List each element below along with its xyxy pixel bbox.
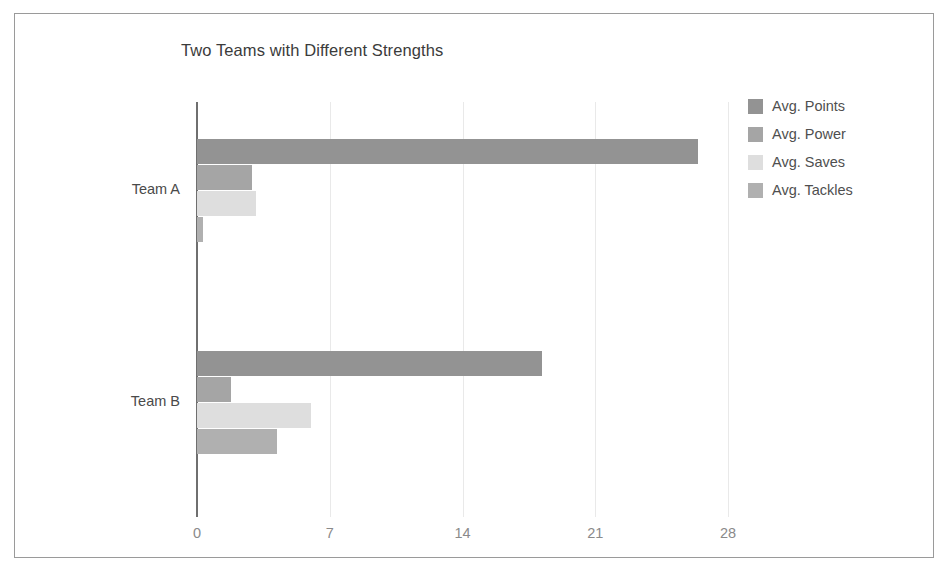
legend-item-avg-points[interactable]: Avg. Points: [748, 97, 928, 116]
legend-item-avg-saves[interactable]: Avg. Saves: [748, 153, 928, 172]
x-tick-label-21: 21: [587, 525, 603, 541]
chart-title: Two Teams with Different Strengths: [181, 41, 443, 60]
legend-label: Avg. Power: [772, 125, 846, 144]
x-tick-label-14: 14: [454, 525, 470, 541]
bar-team-b-avg-saves[interactable]: [197, 403, 311, 428]
bar-team-a-avg-points[interactable]: [197, 139, 698, 164]
legend-label: Avg. Points: [772, 97, 845, 116]
legend-swatch-icon: [748, 99, 763, 114]
legend-item-avg-power[interactable]: Avg. Power: [748, 125, 928, 144]
bar-team-a-avg-power[interactable]: [197, 165, 252, 190]
x-tick-label-28: 28: [720, 525, 736, 541]
legend-swatch-icon: [748, 183, 763, 198]
legend-swatch-icon: [748, 155, 763, 170]
category-label-team-a: Team A: [70, 181, 180, 197]
chart-legend: Avg. PointsAvg. PowerAvg. SavesAvg. Tack…: [748, 97, 928, 209]
bar-team-b-avg-power[interactable]: [197, 377, 231, 402]
legend-swatch-icon: [748, 127, 763, 142]
legend-label: Avg. Tackles: [772, 181, 853, 200]
bar-team-b-avg-tackles[interactable]: [197, 429, 277, 454]
bar-team-a-avg-saves[interactable]: [197, 191, 256, 216]
category-label-team-b: Team B: [70, 393, 180, 409]
gridline-28: [728, 102, 729, 517]
x-tick-label-7: 7: [326, 525, 334, 541]
x-tick-label-0: 0: [193, 525, 201, 541]
bar-team-a-avg-tackles[interactable]: [197, 217, 203, 242]
bar-group-team-b: [197, 351, 728, 455]
chart-border-frame: Two Teams with Different Strengths Team …: [14, 13, 934, 558]
bar-group-team-a: [197, 139, 728, 243]
legend-label: Avg. Saves: [772, 153, 845, 172]
plot-area: [197, 102, 728, 517]
legend-item-avg-tackles[interactable]: Avg. Tackles: [748, 181, 928, 200]
bar-team-b-avg-points[interactable]: [197, 351, 542, 376]
